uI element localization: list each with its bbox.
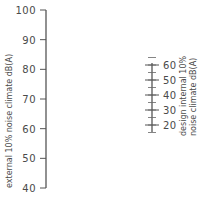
external-tick-label: 100 xyxy=(15,5,36,16)
internal-tick-label: 50 xyxy=(163,75,177,86)
external-tick-label: 60 xyxy=(22,124,36,135)
external-tick-label: 40 xyxy=(22,183,36,194)
external-tick-label: 90 xyxy=(22,35,36,46)
internal-tick-label: 20 xyxy=(163,120,177,131)
internal-axis-title-line1: design internal 10% xyxy=(179,56,188,137)
internal-tick-label: 40 xyxy=(163,90,177,101)
internal-tick-label: 60 xyxy=(163,60,177,71)
internal-tick-label: 30 xyxy=(163,105,177,116)
nomogram: 100908070605040 external 10% noise clima… xyxy=(0,0,217,201)
external-scale: 100908070605040 external 10% noise clima… xyxy=(5,5,46,194)
internal-axis-title-line2: noise climate dB(A) xyxy=(189,58,198,136)
internal-scale: 6050403020 design internal 10% noise cli… xyxy=(145,56,198,137)
external-tick-label: 80 xyxy=(22,64,36,75)
external-tick-label: 70 xyxy=(22,94,36,105)
external-axis-title: external 10% noise climate dB(A) xyxy=(5,54,14,188)
external-tick-label: 50 xyxy=(22,153,36,164)
